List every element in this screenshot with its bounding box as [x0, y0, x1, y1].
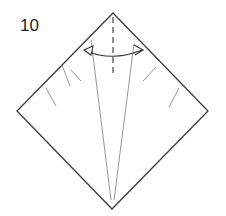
origami-diagram — [0, 0, 226, 216]
